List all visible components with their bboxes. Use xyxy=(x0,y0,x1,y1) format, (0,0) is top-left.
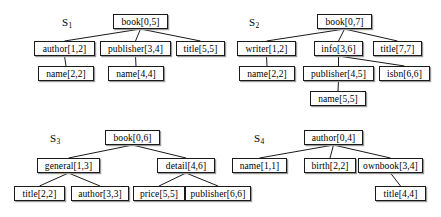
tree-edge-s2-writer-to-s2-name2 xyxy=(267,56,268,66)
subtree-label-s3: S3 xyxy=(50,132,60,144)
tree-edge-s4-ownbook-to-s4-title xyxy=(391,173,401,186)
tree-node-s3-title: title[2,2] xyxy=(14,186,65,201)
tree-edge-s2-book-to-s2-writer xyxy=(267,29,345,41)
tree-node-s4-birth: birth[2,2] xyxy=(304,158,356,173)
tree-edge-s3-general-to-s3-author xyxy=(69,173,101,186)
subtree-label-s2: S2 xyxy=(249,16,259,28)
tree-edge-s2-info-to-s2-isbn xyxy=(339,56,405,66)
tree-edge-s3-book-to-s3-detail xyxy=(133,145,187,158)
subtree-label-subscript: 4 xyxy=(260,137,264,146)
xml-schema-tree-figure: book[0,5]author[1,2]publisher[3,4]title[… xyxy=(0,0,441,217)
tree-node-s3-detail: detail[4,6] xyxy=(157,158,215,173)
tree-node-s2-info: info[3,6] xyxy=(314,41,363,56)
tree-edge-s3-book-to-s3-general xyxy=(69,145,133,158)
subtree-label-s4: S4 xyxy=(254,132,264,144)
tree-node-s3-price: price[5,5] xyxy=(133,186,185,201)
tree-node-s4-author: author[0,4] xyxy=(304,130,363,145)
tree-node-s2-name2: name[2,2] xyxy=(239,66,295,81)
subtree-label-subscript: 3 xyxy=(56,137,60,146)
tree-edge-s1-publisher-to-s1-name4 xyxy=(136,56,137,66)
tree-edge-s1-book-to-s1-title xyxy=(141,29,201,41)
tree-edge-s3-general-to-s3-title xyxy=(40,173,69,186)
tree-node-s1-publisher: publisher[3,4] xyxy=(100,41,171,56)
tree-node-s4-name: name[1,1] xyxy=(232,158,287,173)
tree-edge-s4-author-to-s4-name xyxy=(260,145,334,158)
tree-edge-s2-publisher-to-s2-name5 xyxy=(338,81,339,91)
tree-node-s4-title: title[4,4] xyxy=(375,186,426,201)
tree-node-s3-publisher: publisher[6,6] xyxy=(185,186,251,201)
tree-node-s2-isbn: isbn[6,6] xyxy=(379,66,430,81)
subtree-label-subscript: 2 xyxy=(255,21,259,30)
tree-node-s2-publisher: publisher[4,5] xyxy=(303,66,374,81)
tree-edge-s1-book-to-s1-author xyxy=(65,29,141,41)
tree-node-s1-name4: name[4,4] xyxy=(108,66,164,81)
tree-node-s2-writer: writer[1,2] xyxy=(237,41,296,56)
tree-node-s1-title: title[5,5] xyxy=(176,41,225,56)
tree-node-s3-book: book[0,6] xyxy=(105,130,160,145)
tree-node-s3-general: general[1,3] xyxy=(37,158,100,173)
tree-node-s1-book: book[0,5] xyxy=(113,14,168,29)
tree-edge-s1-book-to-s1-publisher xyxy=(136,29,141,41)
tree-edge-s3-detail-to-s3-publisher xyxy=(186,173,218,186)
tree-edge-s3-detail-to-s3-price xyxy=(159,173,186,186)
subtree-label-subscript: 1 xyxy=(68,21,72,30)
tree-edge-s1-author-to-s1-name2 xyxy=(65,56,67,66)
tree-edges-layer xyxy=(0,0,441,217)
tree-node-s1-name2: name[2,2] xyxy=(38,66,94,81)
tree-node-s1-author: author[1,2] xyxy=(34,41,95,56)
tree-node-s4-ownbook: ownbook[3,4] xyxy=(358,158,423,173)
tree-edge-s2-book-to-s2-info xyxy=(339,29,345,41)
tree-edge-s4-author-to-s4-birth xyxy=(330,145,334,158)
tree-node-s2-book: book[0,7] xyxy=(317,14,372,29)
tree-edge-s2-book-to-s2-title xyxy=(345,29,398,41)
tree-edge-s4-author-to-s4-ownbook xyxy=(334,145,391,158)
subtree-label-s1: S1 xyxy=(62,16,72,28)
tree-node-s3-author: author[3,3] xyxy=(71,186,129,201)
tree-node-s2-title: title[7,7] xyxy=(373,41,422,56)
tree-node-s2-name5: name[5,5] xyxy=(310,91,366,106)
